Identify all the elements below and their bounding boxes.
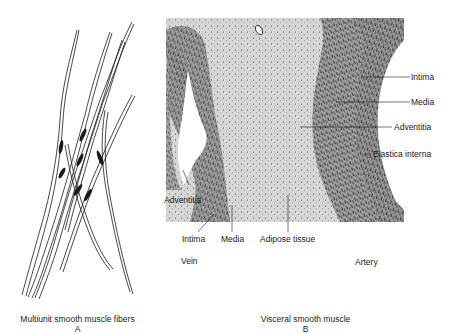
caption-panel-b: Visceral smooth muscle xyxy=(228,314,383,324)
label-intima-vein: Intima xyxy=(182,234,205,244)
label-elastica-interna: Elastica interna xyxy=(373,149,431,159)
caption-panel-a: Multiunit smooth muscle fibers xyxy=(0,314,155,324)
label-adipose-tissue: Adipose tissue xyxy=(260,234,315,244)
label-artery: Artery xyxy=(355,257,378,267)
label-media-vein: Media xyxy=(221,234,244,244)
muscle-fiber-nuclei xyxy=(57,128,104,202)
label-adventitia-artery: Adventitia xyxy=(394,122,431,132)
histology-section xyxy=(166,18,404,222)
panel-letter-b: B xyxy=(228,324,383,334)
label-vein: Vein xyxy=(181,256,198,266)
figure-artwork xyxy=(0,0,453,334)
label-media-artery: Media xyxy=(411,97,434,107)
label-adventitia-vein: Adventitia xyxy=(164,195,201,205)
label-intima-artery: Intima xyxy=(411,72,434,82)
panel-letter-a: A xyxy=(0,324,155,334)
